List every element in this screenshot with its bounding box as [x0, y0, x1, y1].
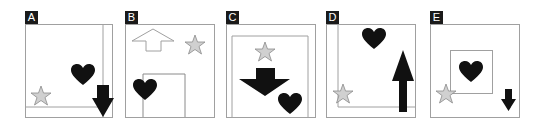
panel-c: C [226, 0, 326, 122]
star-icon [255, 42, 275, 61]
heart-icon [459, 61, 483, 82]
panel-e: E [430, 0, 530, 122]
down-arrow-wide-icon [239, 68, 290, 96]
down-arrow-icon [92, 85, 114, 117]
heart-icon [362, 28, 386, 49]
panel-d: D [326, 0, 426, 122]
panel-b: B [125, 0, 225, 122]
down-arrow-icon [501, 89, 516, 111]
star-icon [436, 84, 456, 103]
heart-icon [71, 64, 95, 85]
heart-icon [133, 79, 157, 100]
heart-icon [278, 93, 302, 114]
panel-d-drawing [326, 0, 426, 122]
panel-a: A [25, 0, 125, 122]
panel-e-drawing [430, 0, 530, 122]
star-icon [333, 84, 353, 103]
panel-b-drawing [125, 0, 225, 122]
star-icon [185, 35, 205, 54]
up-arrow-outline-icon [132, 29, 174, 51]
up-arrow-icon [392, 50, 414, 112]
panel-c-drawing [226, 0, 326, 122]
panel-a-drawing [25, 0, 125, 122]
star-icon [31, 86, 51, 105]
